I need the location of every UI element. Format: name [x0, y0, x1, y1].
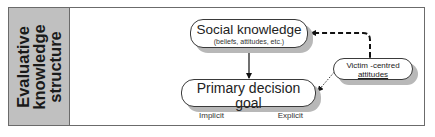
side-label-panel: Evaluative knowledge structure	[8, 7, 70, 126]
side-label-line-1: Evaluative	[15, 24, 31, 109]
victim-line-2: attitudes	[334, 70, 412, 79]
victim-line-1: Victim -centred	[334, 61, 412, 70]
social-knowledge-title: Social knowledge	[191, 22, 307, 37]
node-primary-decision-goal: Primary decision goal Implicit Explicit	[181, 79, 316, 107]
side-label-line-3: structure	[47, 24, 63, 109]
node-victim-centred-attitudes: Victim -centred attitudes	[333, 58, 413, 80]
social-knowledge-subtitle: (beliefs, attitudes, etc.)	[191, 37, 307, 46]
primary-goal-title: Primary decision goal	[182, 81, 315, 111]
side-label-line-2: knowledge	[31, 24, 47, 109]
explicit-label: Explicit	[278, 111, 303, 120]
side-label: Evaluative knowledge structure	[15, 24, 63, 109]
implicit-label: Implicit	[199, 111, 224, 120]
node-social-knowledge: Social knowledge (beliefs, attitudes, et…	[190, 19, 308, 48]
